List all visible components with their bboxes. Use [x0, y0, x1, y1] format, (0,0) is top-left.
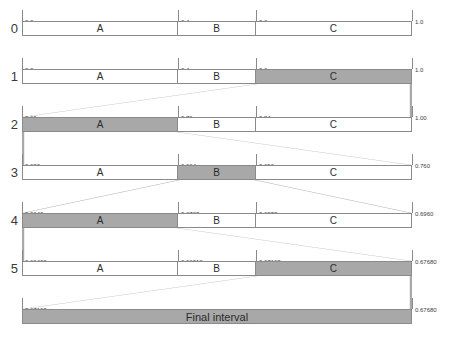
interval-bar-wrapper: 0.00.40.61.0ABC — [22, 58, 412, 84]
interval-bar-wrapper: 0.00.40.61.0ABC — [22, 10, 412, 36]
tick-mark: 0.6960 — [412, 202, 433, 213]
tick-value-label: 0.67680 — [415, 257, 437, 268]
row-index-label: 1 — [2, 70, 18, 83]
interval-bar-wrapper: 0.600.760.841.00ABC — [22, 106, 412, 132]
tick-mark: 1.0 — [412, 10, 423, 21]
tick-mark: 0.664 — [178, 154, 196, 165]
value-labels-strip: 0.664000.669120.671680.67680 — [22, 250, 412, 261]
interval-segment-a: A — [23, 166, 178, 179]
interval-bar: ABC — [22, 165, 412, 180]
interval-bar: ABC — [22, 117, 412, 132]
interval-segment-b: B — [178, 262, 256, 275]
tick-mark: 0.84 — [256, 106, 271, 117]
interval-bar-wrapper: 0.6000.6640.6960.760ABC — [22, 154, 412, 180]
tick-mark: 1.00 — [412, 106, 427, 117]
interval-bar-wrapper: 0.66400.67680.68320.6960ABC — [22, 202, 412, 228]
tick-value-label: 0.6960 — [415, 209, 433, 220]
interval-segment-c: C — [256, 214, 411, 227]
interval-segment-a: A — [23, 262, 178, 275]
row-index-label: 4 — [2, 214, 18, 227]
interval-segment-b: B — [178, 214, 256, 227]
tick-value-label: 1.00 — [415, 113, 427, 124]
tick-mark: 0.6640 — [22, 202, 43, 213]
tick-value-label: 1.0 — [415, 17, 423, 28]
final-interval-label: Final interval — [23, 310, 411, 323]
interval-bar-wrapper: 0.671680.67680Final interval — [22, 298, 412, 324]
row-index-label: 0 — [2, 22, 18, 35]
tick-mark: 0.67680 — [412, 298, 437, 309]
interval-segment-b: B — [178, 22, 256, 35]
tick-mark: 0.67680 — [412, 250, 437, 261]
interval-bar: ABC — [22, 21, 412, 36]
tick-value-label: 1.0 — [415, 65, 423, 76]
value-labels-strip: 0.600.760.841.00 — [22, 106, 412, 117]
interval-segment-b: B — [178, 166, 256, 179]
tick-mark: 1.0 — [412, 58, 423, 69]
tick-mark: 0.0 — [22, 58, 33, 69]
value-labels-strip: 0.66400.67680.68320.6960 — [22, 202, 412, 213]
tick-mark: 0.4 — [178, 10, 189, 21]
interval-segment-c: C — [256, 166, 411, 179]
interval-bar-wrapper: 0.664000.669120.671680.67680ABC — [22, 250, 412, 276]
tick-mark: 0.66400 — [22, 250, 47, 261]
interval-segment-c: C — [256, 262, 411, 275]
interval-segment-c: C — [256, 70, 411, 83]
interval-bar: ABC — [22, 261, 412, 276]
row-index-label: 2 — [2, 118, 18, 131]
arithmetic-coding-diagram: 00.00.40.61.0ABC10.00.40.61.0ABC20.600.7… — [0, 0, 452, 344]
value-labels-strip: 0.671680.67680 — [22, 298, 412, 309]
value-labels-strip: 0.00.40.61.0 — [22, 58, 412, 69]
interval-segment-c: C — [256, 118, 411, 131]
value-labels-strip: 0.00.40.61.0 — [22, 10, 412, 21]
tick-mark: 0.60 — [22, 106, 37, 117]
tick-mark: 0.6768 — [178, 202, 199, 213]
tick-mark: 0.66912 — [178, 250, 203, 261]
interval-segment-a: A — [23, 70, 178, 83]
row-index-label: 5 — [2, 262, 18, 275]
tick-mark: 0.67168 — [22, 298, 47, 309]
tick-mark: 0.696 — [256, 154, 274, 165]
tick-mark: 0.6 — [256, 10, 267, 21]
tick-value-label: 0.760 — [415, 161, 430, 172]
tick-mark: 0.67168 — [256, 250, 281, 261]
interval-bar: ABC — [22, 213, 412, 228]
tick-mark: 0.4 — [178, 58, 189, 69]
interval-segment-c: C — [256, 22, 411, 35]
interval-bar: ABC — [22, 69, 412, 84]
tick-mark: 0.600 — [22, 154, 40, 165]
interval-segment-a: A — [23, 118, 178, 131]
interval-segment-b: B — [178, 118, 256, 131]
interval-segment-b: B — [178, 70, 256, 83]
row-index-label: 3 — [2, 166, 18, 179]
interval-bar: Final interval — [22, 309, 412, 324]
tick-mark: 0.6832 — [256, 202, 277, 213]
interval-segment-a: A — [23, 214, 178, 227]
value-labels-strip: 0.6000.6640.6960.760 — [22, 154, 412, 165]
interval-segment-a: A — [23, 22, 178, 35]
tick-mark: 0.6 — [256, 58, 267, 69]
tick-mark: 0.0 — [22, 10, 33, 21]
tick-value-label: 0.67680 — [415, 305, 437, 316]
tick-mark: 0.760 — [412, 154, 430, 165]
tick-mark: 0.76 — [178, 106, 193, 117]
